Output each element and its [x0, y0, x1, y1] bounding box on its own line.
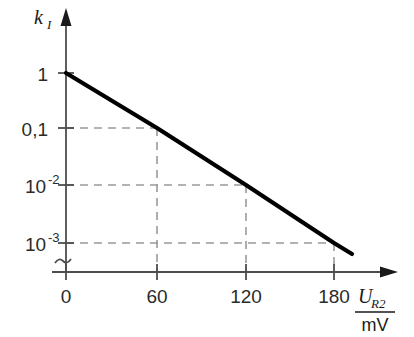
- guide-lines: [66, 128, 334, 272]
- y-axis-label-subscript: I: [46, 17, 52, 32]
- y-tick-label-1e-3-group: 10 -3: [25, 230, 60, 255]
- x-tick-label-0: 0: [61, 286, 72, 307]
- y-axis-label-symbol: k: [34, 6, 44, 28]
- y-tick-label-1e-3-exponent: -3: [48, 230, 60, 245]
- chart-figure: 1 0,1 10 -2 10 -3 0 60 120 180 k I U R2 …: [0, 0, 414, 337]
- y-axis-arrow-icon: [61, 8, 72, 26]
- y-tick-label-1e-2: 10: [25, 176, 46, 197]
- x-axis-arrow-icon: [380, 267, 398, 278]
- chart-svg: 1 0,1 10 -2 10 -3 0 60 120 180 k I U R2 …: [0, 0, 414, 337]
- x-axis-label-subscript: R2: [370, 296, 386, 311]
- y-tick-label-1e-3: 10: [25, 234, 46, 255]
- y-tick-label-0.1: 0,1: [22, 119, 48, 140]
- x-axis-label: U R2 mV: [355, 285, 395, 335]
- y-tick-label-1e-2-group: 10 -2: [25, 172, 60, 197]
- x-tick-label-180: 180: [318, 286, 350, 307]
- y-tick-label-1: 1: [37, 64, 48, 85]
- y-axis-break-icon: [55, 259, 71, 263]
- x-tick-label-120: 120: [230, 286, 262, 307]
- x-tick-label-60: 60: [146, 286, 167, 307]
- axes: [52, 22, 390, 272]
- data-series-line: [66, 73, 352, 254]
- x-axis-label-denominator: mV: [362, 315, 389, 335]
- y-axis-label: k I: [34, 6, 52, 32]
- y-tick-label-1e-2-exponent: -2: [48, 172, 60, 187]
